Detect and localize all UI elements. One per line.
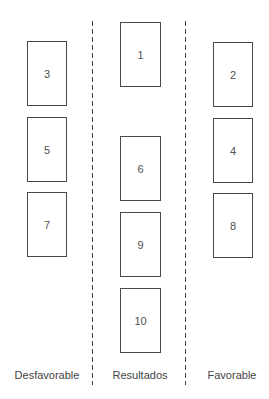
card-number: 6 [137,163,143,175]
column-label-desfavorable: Desfavorable [4,369,90,381]
column-label-resultados: Resultados [97,369,183,381]
card-number: 3 [44,68,50,80]
divider-center-right [185,21,186,385]
card-number: 5 [44,144,50,156]
card-4: 4 [213,118,253,183]
card-number: 8 [230,220,236,232]
card-number: 7 [44,219,50,231]
card-number: 4 [230,145,236,157]
card-10: 10 [120,288,161,353]
card-number: 2 [230,69,236,81]
column-label-favorable: Favorable [189,369,269,381]
card-5: 5 [27,117,67,182]
card-1: 1 [120,22,161,87]
divider-left-center [92,21,93,385]
card-7: 7 [27,192,67,257]
card-number: 1 [137,49,143,61]
card-3: 3 [27,41,67,106]
card-2: 2 [213,42,253,107]
card-6: 6 [120,136,161,201]
card-9: 9 [120,212,161,277]
card-8: 8 [213,193,253,258]
card-number: 10 [134,315,146,327]
card-number: 9 [137,239,143,251]
